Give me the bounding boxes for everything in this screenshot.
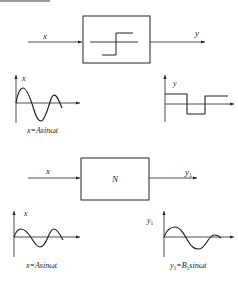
top-output-plot: y [165,75,234,122]
sine-wave [16,88,62,121]
input-label: x [45,166,50,176]
axis-label: x [23,209,28,218]
output-label: y [194,28,199,38]
input-label: x [42,31,47,41]
input-caption: x=Asinωt [26,126,59,135]
input-caption: x=Asinωt [25,261,58,270]
sine-wave [14,229,63,247]
axis-label: y1 [146,216,154,226]
relay-characteristic-icon [90,33,138,55]
bottom-system: x N y1 [28,158,197,200]
sine-wave [164,227,221,249]
describing-function-diagram: x y x x=Asinωt y x N y1 x [0,0,238,282]
top-input-plot: x x=Asinωt [16,74,80,135]
block-label: N [111,174,119,184]
top-system: x y [28,16,205,63]
bottom-output-plot: y1 y1=B1sinωt [146,211,234,271]
output-label: y1 [184,167,192,178]
axis-label: y [172,79,177,88]
output-caption: y1=B1sinωt [169,261,207,271]
bottom-input-plot: x x=Asinωt [14,209,80,270]
axis-label: x [21,74,26,83]
